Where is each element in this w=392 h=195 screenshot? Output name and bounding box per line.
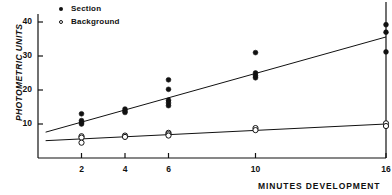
- open-circle-icon: [57, 20, 71, 24]
- data-point-background: [79, 135, 84, 140]
- chart-legend: Section Background: [57, 3, 152, 29]
- plot-canvas: [0, 0, 392, 195]
- x-tick-label: 16: [378, 164, 392, 174]
- x-tick-label: 6: [161, 164, 177, 174]
- data-point-background: [122, 134, 127, 139]
- photometric-units-scatter-chart: Section Background PHOTOMETRIC UNITS MIN…: [0, 0, 392, 195]
- data-point-background: [79, 140, 84, 145]
- data-point-section: [253, 75, 258, 80]
- data-point-section: [384, 22, 389, 27]
- regression-lines: [46, 37, 386, 141]
- data-point-section: [253, 50, 258, 55]
- data-point-section: [166, 77, 171, 82]
- y-tick-label: 40: [16, 16, 32, 26]
- y-axis-ticks: [38, 22, 43, 124]
- y-tick-label: 20: [16, 84, 32, 94]
- y-tick-label: 10: [16, 118, 32, 128]
- data-point-background: [383, 123, 388, 128]
- regression-line: [46, 124, 386, 141]
- legend-item-section: Section: [57, 3, 152, 14]
- data-point-section: [79, 122, 84, 127]
- data-point-background: [253, 128, 258, 133]
- y-tick-label: 30: [16, 50, 32, 60]
- data-point-section: [384, 50, 389, 55]
- legend-item-background: Background: [57, 16, 152, 27]
- y-axis-title: PHOTOMETRIC UNITS: [14, 25, 24, 121]
- regression-line: [46, 37, 386, 132]
- data-point-section: [123, 110, 128, 115]
- filled-circle-icon: [57, 7, 71, 11]
- legend-label-background: Background: [71, 17, 120, 27]
- data-points: [79, 22, 389, 145]
- legend-label-section: Section: [71, 4, 101, 14]
- x-axis-ticks: [82, 153, 387, 158]
- data-point-section: [79, 111, 84, 116]
- data-point-section: [384, 30, 389, 35]
- x-tick-label: 10: [248, 164, 264, 174]
- data-point-section: [166, 103, 171, 108]
- data-point-background: [166, 133, 171, 138]
- x-tick-label: 2: [74, 164, 90, 174]
- x-tick-label: 4: [117, 164, 133, 174]
- data-point-section: [166, 87, 171, 92]
- x-axis-title: MINUTES DEVELOPMENT: [258, 181, 380, 191]
